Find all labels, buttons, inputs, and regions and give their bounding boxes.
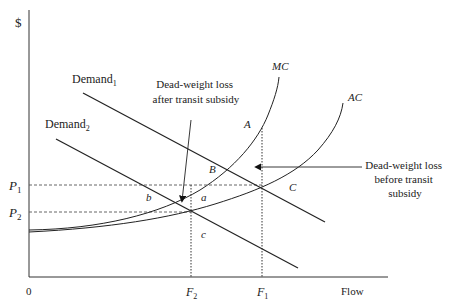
p2-label: P2 xyxy=(8,205,21,222)
after-subsidy-annotation: Dead-weight loss after transit subsidy xyxy=(153,78,240,105)
p1-label: P1 xyxy=(8,178,21,195)
mc-label: MC xyxy=(271,60,289,72)
area-c-label: c xyxy=(201,228,206,240)
x-axis-label: Flow xyxy=(341,285,364,297)
area-a-label: a xyxy=(201,191,207,203)
ac-label: AC xyxy=(347,91,363,103)
point-A-label: A xyxy=(243,118,251,130)
demand2-label: Demand2 xyxy=(45,117,90,133)
after-subsidy-arrow xyxy=(182,120,191,201)
point-B-label: B xyxy=(209,163,216,175)
origin-label: 0 xyxy=(26,285,32,297)
diagram-canvas: $ 0 Flow P1 P2 F2 F1 Demand1 Demand2 MC … xyxy=(0,0,457,307)
demand1-label: Demand1 xyxy=(72,72,117,88)
f2-label: F2 xyxy=(185,285,197,301)
before-subsidy-annotation: Dead-weight loss before transit subsidy xyxy=(365,159,444,199)
y-axis-label: $ xyxy=(15,15,22,30)
area-b-label: b xyxy=(146,191,152,203)
f1-label: F1 xyxy=(256,285,268,301)
point-C-label: C xyxy=(289,181,297,193)
